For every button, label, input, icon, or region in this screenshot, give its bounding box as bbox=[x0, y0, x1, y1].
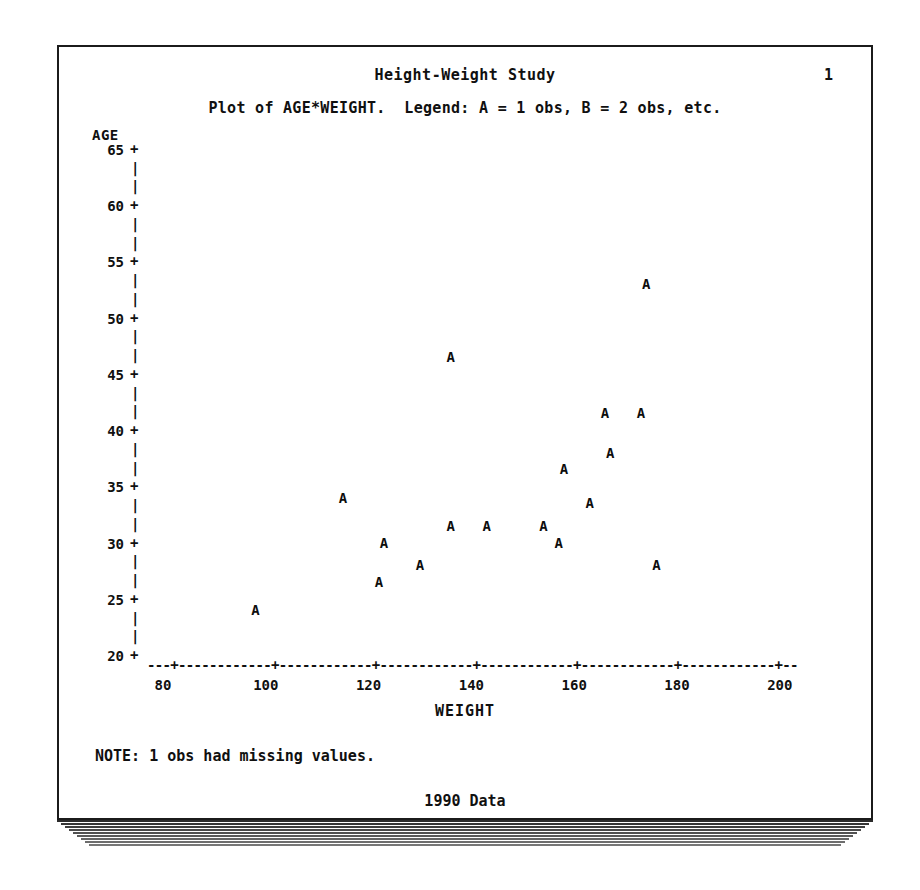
x-axis-label: WEIGHT bbox=[59, 702, 871, 720]
paper-stack-edge bbox=[69, 829, 861, 831]
y-axis-dash: | bbox=[131, 628, 139, 644]
y-tick-mark-25: + bbox=[130, 591, 138, 607]
y-tick-label-40: 40 bbox=[90, 423, 124, 439]
y-tick-label-35: 35 bbox=[90, 479, 124, 495]
y-axis-dash: | bbox=[131, 516, 139, 532]
data-point-marker: A bbox=[378, 536, 390, 550]
paper-stack-edge bbox=[65, 826, 865, 828]
x-axis-rule: ---+------------+------------+----------… bbox=[147, 657, 798, 673]
paper-stack-edge bbox=[81, 838, 849, 840]
y-tick-label-20: 20 bbox=[90, 648, 124, 664]
y-axis-dash: | bbox=[131, 553, 139, 569]
footnote: 1990 Data bbox=[59, 792, 871, 810]
data-point-marker: A bbox=[635, 406, 647, 420]
y-axis-dash: | bbox=[131, 497, 139, 513]
x-tick-label-100: 100 bbox=[246, 677, 286, 693]
x-tick-label-80: 80 bbox=[143, 677, 183, 693]
y-axis-dash: | bbox=[131, 328, 139, 344]
y-axis-dash: | bbox=[131, 160, 139, 176]
paper-stack-edge bbox=[61, 823, 869, 825]
data-point-marker: A bbox=[537, 519, 549, 533]
y-tick-label-65: 65 bbox=[90, 142, 124, 158]
y-tick-mark-35: + bbox=[130, 478, 138, 494]
y-tick-mark-50: + bbox=[130, 310, 138, 326]
paper-stack-edge bbox=[85, 841, 845, 843]
y-tick-label-60: 60 bbox=[90, 198, 124, 214]
data-point-marker: A bbox=[481, 519, 493, 533]
y-axis-dash: | bbox=[131, 216, 139, 232]
y-tick-label-55: 55 bbox=[90, 254, 124, 270]
paper-stack-edge bbox=[57, 820, 873, 822]
y-axis-dash: | bbox=[131, 441, 139, 457]
printed-page-sheet: Height-Weight Study 1 Plot of AGE*WEIGHT… bbox=[57, 45, 873, 820]
x-tick-label-180: 180 bbox=[657, 677, 697, 693]
y-tick-label-30: 30 bbox=[90, 536, 124, 552]
y-tick-label-45: 45 bbox=[90, 367, 124, 383]
data-point-marker: A bbox=[337, 491, 349, 505]
y-tick-label-50: 50 bbox=[90, 311, 124, 327]
data-point-marker: A bbox=[414, 558, 426, 572]
y-tick-mark-30: + bbox=[130, 535, 138, 551]
data-point-marker: A bbox=[558, 462, 570, 476]
data-point-marker: A bbox=[445, 519, 457, 533]
x-tick-label-200: 200 bbox=[760, 677, 800, 693]
paper-stack-shadow bbox=[44, 820, 886, 856]
y-axis-dash: | bbox=[131, 460, 139, 476]
paper-stack-edge bbox=[89, 844, 841, 846]
missing-values-note: NOTE: 1 obs had missing values. bbox=[95, 747, 375, 765]
y-axis-dash: | bbox=[131, 572, 139, 588]
y-axis-dash: | bbox=[131, 347, 139, 363]
y-axis-dash: | bbox=[131, 403, 139, 419]
y-axis-dash: | bbox=[131, 235, 139, 251]
y-axis-dash: | bbox=[131, 610, 139, 626]
data-point-marker: A bbox=[445, 350, 457, 364]
y-tick-mark-55: + bbox=[130, 253, 138, 269]
y-axis-dash: | bbox=[131, 385, 139, 401]
x-tick-label-140: 140 bbox=[451, 677, 491, 693]
x-tick-label-120: 120 bbox=[349, 677, 389, 693]
y-axis-dash: | bbox=[131, 178, 139, 194]
y-axis-dash: | bbox=[131, 272, 139, 288]
data-point-marker: A bbox=[604, 446, 616, 460]
data-point-marker: A bbox=[640, 277, 652, 291]
screenshot-canvas: Height-Weight Study 1 Plot of AGE*WEIGHT… bbox=[0, 0, 920, 890]
y-tick-mark-40: + bbox=[130, 422, 138, 438]
y-tick-mark-20: + bbox=[130, 647, 138, 663]
paper-stack-edge bbox=[73, 832, 857, 834]
y-tick-mark-45: + bbox=[130, 366, 138, 382]
data-point-marker: A bbox=[650, 558, 662, 572]
y-tick-mark-60: + bbox=[130, 197, 138, 213]
x-tick-label-160: 160 bbox=[554, 677, 594, 693]
y-tick-label-25: 25 bbox=[90, 592, 124, 608]
data-point-marker: A bbox=[599, 406, 611, 420]
y-tick-mark-65: + bbox=[130, 141, 138, 157]
data-point-marker: A bbox=[553, 536, 565, 550]
y-axis-dash: | bbox=[131, 291, 139, 307]
paper-stack-edge bbox=[77, 835, 853, 837]
data-point-marker: A bbox=[250, 603, 262, 617]
data-point-marker: A bbox=[373, 575, 385, 589]
data-point-marker: A bbox=[584, 496, 596, 510]
